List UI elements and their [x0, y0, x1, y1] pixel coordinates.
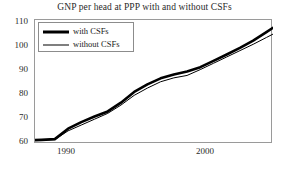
legend-item-with-csfs: with CSFs [43, 25, 129, 38]
x-tick-label: 1990 [46, 147, 86, 156]
chart-container: GNP per head at PPP with and without CSF… [0, 0, 289, 170]
legend-item-without-csfs: without CSFs [43, 38, 129, 51]
legend-label: without CSFs [73, 40, 120, 49]
chart-legend: with CSFs without CSFs [38, 22, 134, 52]
legend-label: with CSFs [73, 27, 109, 36]
legend-line-swatch-thick [43, 28, 69, 36]
legend-line-swatch-thin [43, 41, 69, 49]
x-tick-label: 2000 [185, 147, 225, 156]
